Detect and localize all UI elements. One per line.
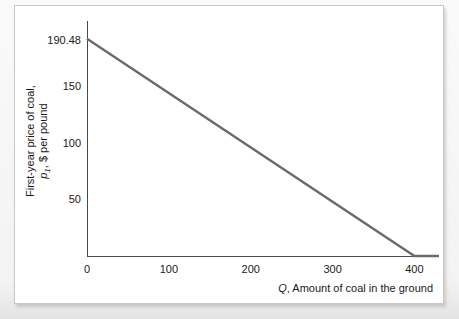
x-axis-title-text: , Amount of coal in the ground xyxy=(287,282,433,294)
demand-curve xyxy=(15,6,445,305)
y-axis-title-line1: First-year price of coal, xyxy=(24,85,36,197)
y-axis-title: First-year price of coal, p1, $ per poun… xyxy=(24,51,54,231)
y-axis-title-line2: , $ per pound xyxy=(37,103,49,168)
x-axis-title: Q, Amount of coal in the ground xyxy=(278,282,433,294)
chart-panel: 190.48 150 100 50 0 100 200 300 400 Q, A… xyxy=(14,5,444,304)
y-axis-subscript: 1 xyxy=(43,168,52,172)
y-axis-symbol: p xyxy=(37,173,49,179)
x-axis-symbol: Q xyxy=(278,282,287,294)
plot-area: 190.48 150 100 50 0 100 200 300 400 Q, A… xyxy=(15,6,445,305)
figure-root: 190.48 150 100 50 0 100 200 300 400 Q, A… xyxy=(0,0,459,319)
